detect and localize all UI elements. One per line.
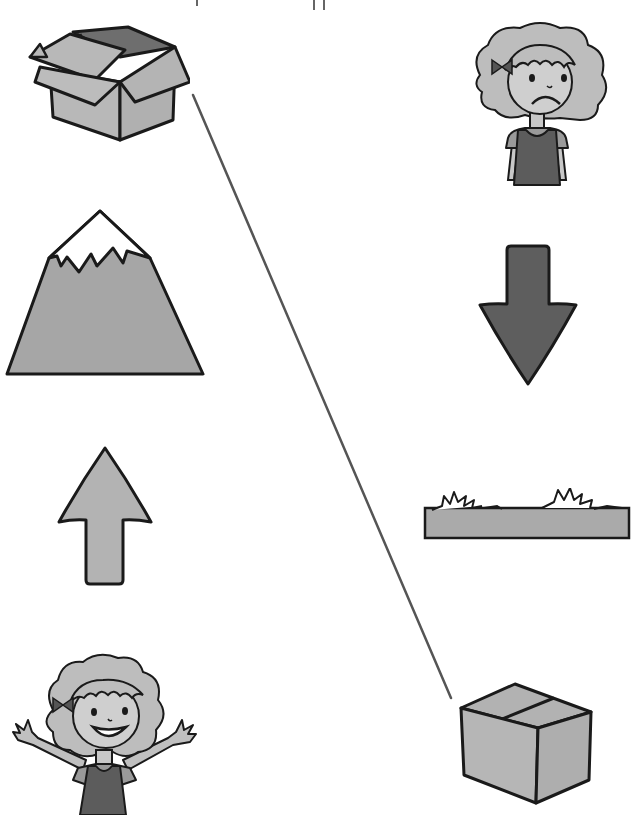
down-arrow-picture[interactable]: down arrow	[478, 242, 578, 387]
open-box-icon	[25, 22, 190, 142]
mountain-picture[interactable]: mountain	[5, 208, 205, 378]
up-arrow-picture[interactable]: up arrow	[55, 444, 155, 587]
closed-box-picture[interactable]: closed box	[458, 680, 598, 805]
match-line-open-box-to-closed-box[interactable]	[193, 95, 451, 698]
flat-ground-picture[interactable]: flat ground	[422, 488, 632, 543]
flat-ground-icon	[422, 488, 632, 543]
sad-girl-picture[interactable]: sad girl	[470, 20, 610, 188]
closed-box-icon	[458, 680, 598, 805]
up-arrow-icon	[55, 444, 155, 587]
happy-girl-icon	[8, 650, 198, 815]
mountain-icon	[5, 208, 205, 378]
happy-girl-picture[interactable]: happy girl	[8, 650, 198, 815]
open-box-picture[interactable]: open box	[25, 22, 190, 142]
top-edge-marks	[0, 0, 634, 12]
down-arrow-icon	[478, 242, 578, 387]
sad-girl-icon	[470, 20, 610, 188]
